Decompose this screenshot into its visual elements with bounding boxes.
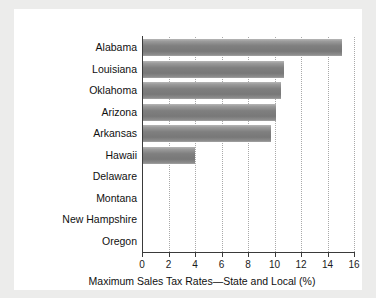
- category-label-oregon: Oregon: [19, 235, 137, 247]
- bar-row: [142, 61, 284, 78]
- x-tick-12: [301, 252, 302, 257]
- x-tick-label-16: 16: [342, 259, 366, 270]
- chart-page: AlabamaLouisianaOklahomaArizonaArkansasH…: [0, 0, 376, 298]
- x-tick-label-4: 4: [183, 259, 207, 270]
- category-label-arkansas: Arkansas: [19, 127, 137, 139]
- category-label-delaware: Delaware: [19, 170, 137, 182]
- x-tick-label-12: 12: [289, 259, 313, 270]
- category-label-oklahoma: Oklahoma: [19, 84, 137, 96]
- bar-oklahoma: [142, 82, 281, 99]
- x-tick-6: [222, 252, 223, 257]
- plot-area: [142, 37, 354, 252]
- category-label-louisiana: Louisiana: [19, 63, 137, 75]
- x-tick-0: [142, 252, 143, 257]
- x-tick-label-6: 6: [210, 259, 234, 270]
- x-tick-10: [275, 252, 276, 257]
- x-axis-title: Maximum Sales Tax Rates—State and Local …: [28, 275, 376, 287]
- chart-panel: AlabamaLouisianaOklahomaArizonaArkansasH…: [14, 9, 362, 290]
- gridline-12: [301, 37, 302, 252]
- x-tick-label-0: 0: [130, 259, 154, 270]
- category-label-arizona: Arizona: [19, 106, 137, 118]
- category-label-montana: Montana: [19, 192, 137, 204]
- category-label-hawaii: Hawaii: [19, 149, 137, 161]
- bar-arkansas: [142, 125, 271, 142]
- bar-louisiana: [142, 61, 284, 78]
- x-tick-2: [169, 252, 170, 257]
- bar-row: [142, 125, 271, 142]
- x-tick-label-8: 8: [236, 259, 260, 270]
- x-tick-8: [248, 252, 249, 257]
- bar-row: [142, 39, 342, 56]
- x-tick-label-14: 14: [316, 259, 340, 270]
- gridline-16: [354, 37, 355, 252]
- bar-arizona: [142, 104, 276, 121]
- bar-alabama: [142, 39, 342, 56]
- x-tick-4: [195, 252, 196, 257]
- bar-row: [142, 82, 281, 99]
- x-tick-16: [354, 252, 355, 257]
- bar-row: [142, 147, 195, 164]
- category-label-alabama: Alabama: [19, 41, 137, 53]
- gridline-14: [328, 37, 329, 252]
- x-tick-label-10: 10: [263, 259, 287, 270]
- y-axis-line: [142, 36, 143, 253]
- x-tick-label-2: 2: [157, 259, 181, 270]
- x-tick-14: [328, 252, 329, 257]
- category-axis-labels: AlabamaLouisianaOklahomaArizonaArkansasH…: [14, 37, 137, 252]
- category-label-new-hampshire: New Hampshire: [19, 213, 137, 225]
- bar-row: [142, 104, 276, 121]
- bar-hawaii: [142, 147, 195, 164]
